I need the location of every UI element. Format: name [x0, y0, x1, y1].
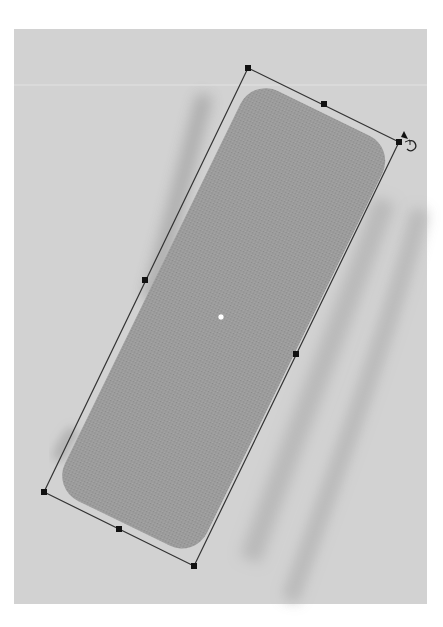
selection-overlay — [0, 0, 443, 627]
handle-right-mid[interactable] — [293, 351, 299, 357]
handle-bottom-mid[interactable] — [116, 526, 122, 532]
handle-bottom-right[interactable] — [191, 563, 197, 569]
handle-bottom-left[interactable] — [41, 489, 47, 495]
handle-left-mid[interactable] — [142, 277, 148, 283]
handle-top-right[interactable] — [396, 139, 402, 145]
handle-top-left[interactable] — [245, 65, 251, 71]
handle-top-mid[interactable] — [321, 101, 327, 107]
center-handle[interactable] — [218, 314, 224, 320]
rotate-cursor-icon — [401, 131, 416, 151]
